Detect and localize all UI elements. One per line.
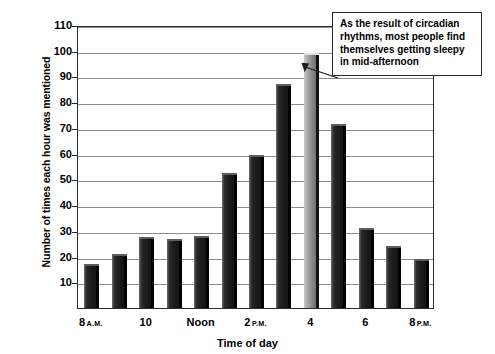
bar	[249, 155, 264, 308]
bar-top	[331, 124, 346, 126]
bar-side	[234, 173, 237, 308]
bar-top	[249, 155, 264, 157]
x-axis-title: Time of day	[0, 337, 495, 349]
bar	[139, 237, 154, 308]
bar-face	[331, 124, 343, 308]
x-tick-text: Noon	[187, 316, 215, 328]
bar	[276, 84, 291, 308]
x-tick-text: 2	[244, 316, 250, 328]
annotation-callout: As the result of circadian rhythms, most…	[332, 12, 482, 76]
bar-face	[276, 84, 288, 308]
y-axis-tick-label: 50	[32, 174, 72, 185]
bar-side	[398, 246, 401, 308]
bar-face	[167, 239, 179, 308]
bar	[112, 254, 127, 308]
y-axis-tick-label: 110	[32, 20, 72, 31]
bar-side	[288, 84, 291, 308]
gridline	[78, 78, 433, 79]
x-tick-text: 8	[79, 316, 85, 328]
x-axis-tick-label: Noon	[187, 316, 215, 328]
x-axis-tick-label: 2P.M.	[244, 316, 266, 328]
bar-top	[112, 254, 127, 256]
bar-face	[249, 155, 261, 308]
y-axis-tick-label: 10	[32, 277, 72, 288]
bar-face	[194, 236, 206, 308]
x-axis-tick-label: 10	[140, 316, 152, 328]
bar-side	[151, 237, 154, 308]
bar-top	[222, 173, 237, 175]
bar-face	[359, 228, 371, 308]
bar-face	[84, 264, 96, 308]
x-tick-meridiem: A.M.	[87, 319, 103, 328]
bar-top	[84, 264, 99, 266]
x-tick-text: 10	[140, 316, 152, 328]
y-axis-tick-label: 60	[32, 149, 72, 160]
bar	[414, 259, 429, 308]
bar	[359, 228, 374, 308]
bar-top	[139, 237, 154, 239]
bar-top	[276, 84, 291, 86]
x-tick-text: 6	[362, 316, 368, 328]
gridline	[78, 104, 433, 105]
x-tick-meridiem: P.M.	[252, 319, 267, 328]
bar	[194, 236, 209, 308]
bar-side	[179, 239, 182, 308]
x-axis-tick-label: 8P.M.	[409, 316, 431, 328]
y-axis-tick-label: 90	[32, 71, 72, 82]
bar-face	[112, 254, 124, 308]
bar-chart-figure: Number of times each hour was mentioned …	[0, 0, 495, 354]
bar-top	[359, 228, 374, 230]
bar-face	[386, 246, 398, 308]
bar-face	[414, 259, 426, 308]
bar-face	[222, 173, 234, 308]
bar-top	[167, 239, 182, 241]
bar-top	[414, 259, 429, 261]
y-axis-tick-label: 80	[32, 97, 72, 108]
bar-side	[371, 228, 374, 308]
bar	[331, 124, 346, 308]
y-axis-tick-label: 30	[32, 226, 72, 237]
bar-side	[261, 155, 264, 308]
gridline	[78, 130, 433, 131]
bar-side	[206, 236, 209, 308]
bar	[304, 53, 319, 308]
y-axis-title: Number of times each hour was mentioned	[40, 12, 52, 312]
bar-face	[139, 237, 151, 308]
bar-face	[304, 53, 316, 308]
x-axis-tick-label: 6	[362, 316, 368, 328]
x-tick-text: 4	[307, 316, 313, 328]
bar	[222, 173, 237, 308]
bar-side	[426, 259, 429, 308]
bar	[386, 246, 401, 308]
x-tick-text: 8	[409, 316, 415, 328]
x-axis-tick-label: 8A.M.	[79, 316, 103, 328]
bar	[84, 264, 99, 308]
bar-side	[124, 254, 127, 308]
bar	[167, 239, 182, 308]
bar-top	[194, 236, 209, 238]
bar-top	[304, 53, 319, 55]
x-axis-tick-label: 4	[307, 316, 313, 328]
y-axis-tick-label: 100	[32, 46, 72, 57]
y-axis-tick-label: 20	[32, 252, 72, 263]
bar-top	[386, 246, 401, 248]
y-axis-tick-label: 70	[32, 123, 72, 134]
bar-side	[343, 124, 346, 308]
bar-side	[316, 53, 319, 308]
bar-side	[96, 264, 99, 308]
x-tick-meridiem: P.M.	[417, 319, 432, 328]
y-axis-tick-label: 40	[32, 200, 72, 211]
